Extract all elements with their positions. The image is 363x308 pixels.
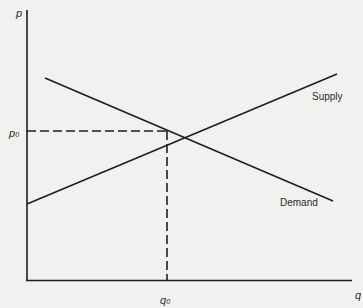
demand-label: Demand xyxy=(280,198,318,208)
equilibrium-price-label: p0 xyxy=(9,124,19,140)
supply-label: Supply xyxy=(312,92,343,102)
demand-curve xyxy=(45,78,333,201)
y-axis-label: p xyxy=(16,8,22,19)
supply-curve xyxy=(27,74,337,204)
x-axis-label: q xyxy=(355,290,361,301)
supply-demand-diagram xyxy=(0,0,363,308)
equilibrium-quantity-label: q0 xyxy=(160,291,170,307)
